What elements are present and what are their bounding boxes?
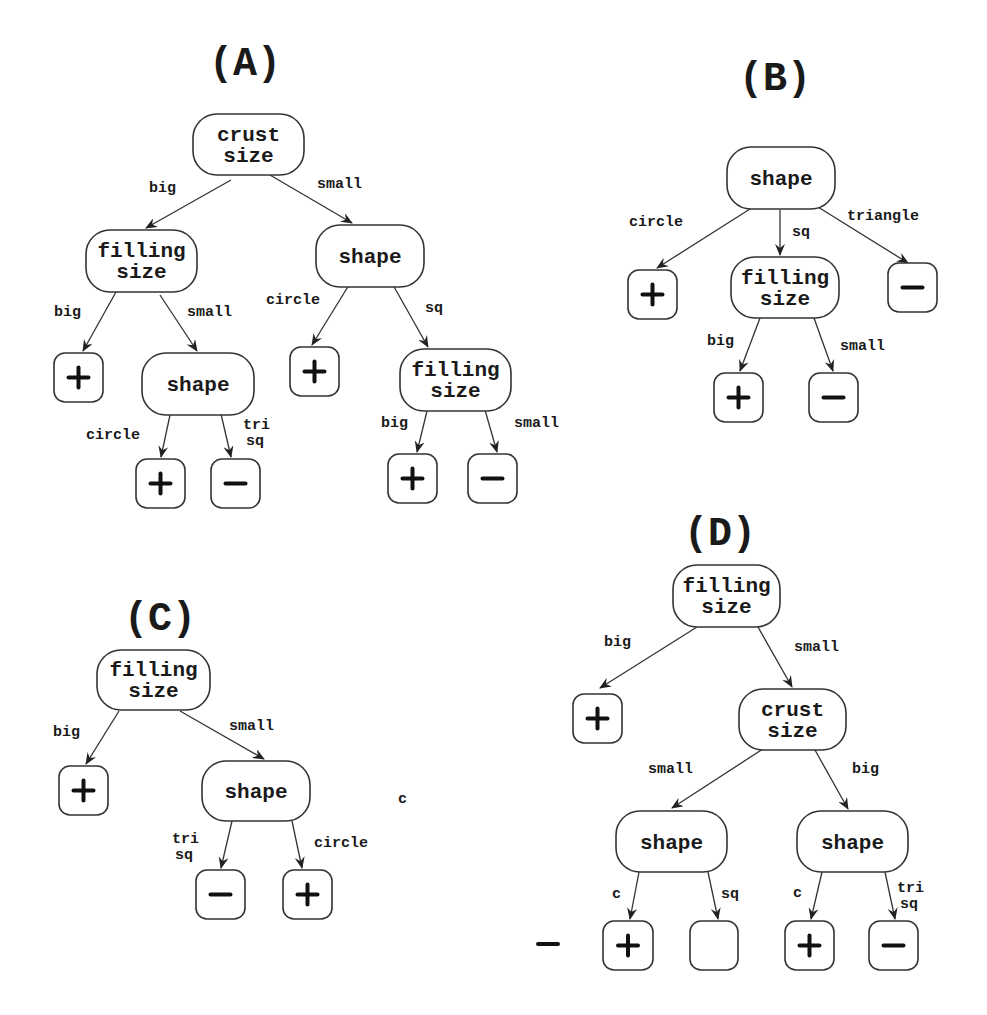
tree-edge: big (600, 627, 697, 688)
arrow-icon (485, 410, 497, 452)
arrow-icon (86, 711, 119, 764)
decision-node: shape (202, 761, 310, 821)
node-label: shape (338, 246, 401, 269)
decision-tree-figure: (A)bigsmallbigsmallcirclesqcircletrisqbi… (0, 0, 987, 1015)
panel-title: (B) (739, 57, 811, 102)
node-label: shape (166, 374, 229, 397)
tree-edge: small (648, 747, 766, 808)
arrow-icon (630, 872, 639, 919)
leaf-node (628, 270, 677, 319)
arrow-icon (161, 415, 170, 457)
edge-label: triangle (847, 208, 919, 225)
tree-edge: circle (86, 415, 170, 457)
tree-edge: trisq (172, 821, 232, 868)
decision-node: shape (727, 147, 835, 209)
leaf-node (136, 459, 185, 508)
edge-label: trisq (172, 831, 199, 864)
tree-edge: circle (266, 285, 349, 345)
leaf-node (59, 766, 108, 815)
edge-label: sq (792, 224, 810, 241)
tree-edge: sq (393, 285, 443, 347)
tree-edge: small (814, 318, 885, 371)
edge-label: trisq (897, 880, 924, 913)
edge-label: sq (721, 886, 739, 903)
edge-label: big (707, 333, 734, 350)
edge-label: big (54, 304, 81, 321)
panel-title: (D) (684, 512, 756, 557)
arrow-icon (221, 414, 231, 457)
decision-node: shape (142, 353, 254, 415)
tree-panel-c: (C)bigsmalltrisqcirclefillingsizeshapec (53, 597, 407, 919)
arrow-icon (740, 318, 760, 371)
node-label: shape (749, 168, 812, 191)
panels-root: (A)bigsmallbigsmallcirclesqcircletrisqbi… (53, 42, 937, 970)
tree-panel-d: (D)bigsmallsmallbigcsqctrisqfillingsizec… (538, 512, 924, 970)
edge-label: circle (86, 427, 140, 444)
decision-node: shape (797, 811, 908, 872)
node-label: crustsize (761, 699, 824, 743)
decision-node: crustsize (193, 114, 304, 175)
edge-label: small (648, 761, 693, 778)
leaf-node (211, 459, 260, 508)
arrow-icon (83, 292, 116, 351)
tree-edge: c (793, 872, 822, 919)
node-label: shape (224, 781, 287, 804)
tree-edge: small (758, 627, 839, 687)
leaf-node (573, 694, 622, 743)
edge-label: sq (425, 300, 443, 317)
tree-edge: trisq (221, 414, 270, 457)
tree-edge: small (180, 711, 274, 759)
decision-node: fillingsize (400, 349, 511, 411)
edge-label: small (840, 338, 885, 355)
edge-label: circle (266, 292, 320, 309)
edge-label: trisq (243, 417, 270, 450)
tree-panel-a: (A)bigsmallbigsmallcirclesqcircletrisqbi… (54, 42, 559, 508)
leaf-node (690, 921, 738, 970)
decision-node: fillingsize (86, 230, 197, 292)
arrow-icon (885, 872, 895, 919)
leaf-node (888, 263, 937, 312)
edge-label: big (604, 634, 631, 651)
tree-edge: c (612, 872, 639, 919)
arrow-icon (758, 627, 792, 687)
tree-edge: triangle (818, 207, 919, 263)
leaf-node (54, 353, 103, 402)
leaf-node (809, 373, 858, 422)
decision-node: shape (316, 225, 424, 287)
leaf-node (785, 921, 834, 970)
edge-label: small (317, 176, 362, 193)
tree-edge: circle (629, 209, 750, 268)
tree-edge: big (381, 411, 427, 452)
leaf-node (603, 921, 653, 970)
edge-label: small (187, 304, 232, 321)
edge-label: big (149, 180, 176, 197)
arrow-icon (417, 411, 427, 452)
edge-label: small (229, 718, 274, 735)
node-label: shape (640, 832, 703, 855)
panel-title: (C) (124, 597, 196, 642)
decision-node: shape (616, 811, 727, 872)
edge-label: circle (629, 214, 683, 231)
tree-edge: sq (780, 210, 810, 255)
tree-edge: sq (708, 872, 739, 919)
tree-edge: circle (292, 821, 368, 868)
tree-edge: small (270, 175, 362, 223)
arrow-icon (708, 872, 718, 919)
arrow-icon (814, 318, 833, 371)
tree-edge: big (54, 292, 116, 351)
decision-node: fillingsize (731, 257, 839, 318)
arrow-icon (811, 872, 822, 919)
decision-node: crustsize (739, 689, 846, 750)
edge-label: c (793, 885, 802, 902)
edge-label: circle (314, 835, 368, 852)
node-label: shape (821, 832, 884, 855)
decision-node: fillingsize (97, 650, 210, 710)
panel-title: (A) (209, 42, 281, 87)
leaf-node (869, 921, 918, 970)
tree-edge: small (160, 295, 232, 351)
tree-panel-b: (B)circlesqtrianglebigsmallshapefillings… (628, 57, 937, 422)
leaf-node (388, 454, 437, 503)
arrow-icon (292, 821, 302, 868)
edge-label: small (794, 639, 839, 656)
leaf-node (468, 454, 517, 503)
